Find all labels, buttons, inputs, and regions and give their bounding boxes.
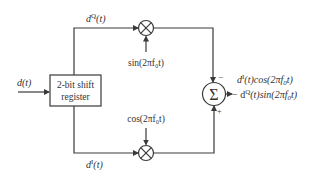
top-multiplier-icon [139,21,154,36]
summer-minus-sign: − [218,72,223,82]
input-label: d(t) [17,77,32,89]
register-label-line2: register [61,92,90,102]
top-product-path [154,28,214,82]
di-label: dI(t) [86,158,103,171]
bottom-multiplier-icon [139,146,154,161]
svg-text:Σ: Σ [209,86,218,103]
dq-label: dQ(t) [86,12,106,25]
cos-carrier-label: cos(2πf₀t) [127,114,165,125]
sin-carrier-label: sin(2πf₀t) [128,58,164,69]
summer-icon: Σ [203,83,226,106]
summer-plus-sign: + [217,107,222,116]
register-label-line1: 2-bit shift [57,80,95,90]
output-line1: dI(t)cos(2πf0t) [237,73,294,87]
output-line2: − dQ(t)sin(2πf0t) [232,88,298,102]
modulator-diagram: d(t) 2-bit shift register dQ(t) dI(t) si… [0,0,320,177]
